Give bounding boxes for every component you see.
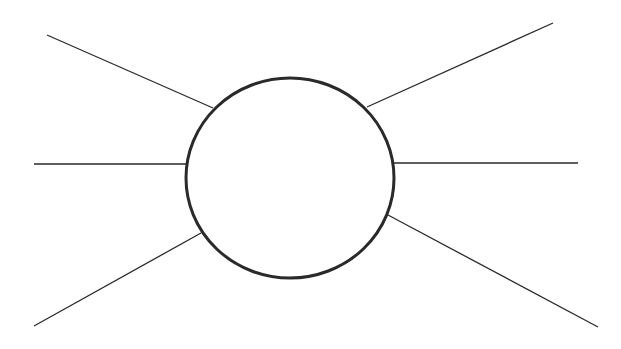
spider-diagram — [0, 0, 621, 349]
leg-line-upper-right — [367, 23, 553, 107]
leg-line-upper-left — [47, 35, 213, 108]
center-circle — [186, 78, 394, 278]
leg-line-lower-right — [388, 215, 598, 327]
leg-line-lower-left — [34, 233, 201, 326]
